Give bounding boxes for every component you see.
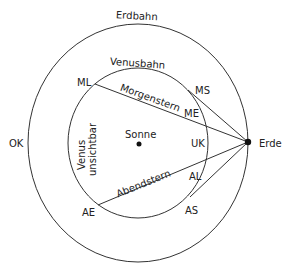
earth-dot <box>245 139 251 145</box>
venus-invisible-label-line1: Venus <box>76 140 87 170</box>
sun-label: Sonne <box>125 129 156 140</box>
point-ms: MS <box>195 85 210 96</box>
earth-label: Erde <box>259 138 282 149</box>
point-as: AS <box>185 205 198 216</box>
venus-orbit-diagram: Erdbahn Venusbahn ML MS ME UK AL AS AE O… <box>0 0 292 267</box>
point-uk: UK <box>191 138 205 149</box>
venus-invisible-label-line2: unsichtbar <box>87 122 98 176</box>
point-ok: OK <box>9 138 24 149</box>
point-al: AL <box>189 171 202 182</box>
morning-star-label: Morgenstern <box>119 82 182 114</box>
point-ml: ML <box>77 77 92 88</box>
point-me: ME <box>184 108 199 119</box>
evening-star-label: Abendstern <box>115 168 173 200</box>
sun-dot <box>137 142 142 147</box>
point-ae: AE <box>82 207 95 218</box>
venus-orbit-label: Venusbahn <box>110 56 166 71</box>
morning-star-line <box>95 84 248 142</box>
earth-orbit-label: Erdbahn <box>116 9 158 22</box>
